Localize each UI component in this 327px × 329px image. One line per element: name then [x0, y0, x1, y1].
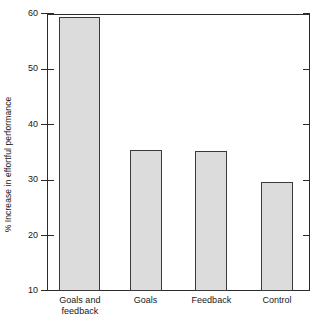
y-tick-label: 50: [14, 64, 38, 73]
x-tick-label-line: Control: [244, 295, 310, 306]
y-tick-mark-right: [303, 235, 310, 236]
x-tick-label-line: feedback: [47, 306, 113, 317]
x-tick-label-line: Goals: [113, 295, 179, 306]
y-tick-mark-outer: [41, 13, 47, 14]
y-tick-mark: [47, 180, 54, 181]
y-tick-mark-outer: [41, 124, 47, 125]
bar: [130, 150, 162, 291]
y-tick-mark-right: [303, 180, 310, 181]
bar: [261, 182, 293, 291]
y-tick-mark-right: [303, 69, 310, 70]
y-tick-mark-right: [303, 290, 310, 291]
bar-chart-figure: % Increase in effortful performance 1020…: [0, 0, 327, 329]
bar: [195, 151, 227, 291]
y-tick-mark-outer: [41, 235, 47, 236]
x-tick-label: Feedback: [179, 295, 245, 306]
y-tick-mark: [47, 124, 54, 125]
y-tick-label: 30: [14, 175, 38, 184]
y-tick-mark-outer: [41, 180, 47, 181]
x-tick-label-line: Feedback: [179, 295, 245, 306]
bar: [59, 17, 100, 291]
y-tick-mark-outer: [41, 69, 47, 70]
y-tick-mark: [47, 235, 54, 236]
x-tick-label: Goals andfeedback: [47, 295, 113, 317]
y-tick-label: 20: [14, 231, 38, 240]
x-tick-label: Goals: [113, 295, 179, 306]
y-tick-mark: [47, 69, 54, 70]
y-tick-mark-outer: [41, 290, 47, 291]
y-tick-mark-right: [303, 13, 310, 14]
y-axis-title: % Increase in effortful performance: [0, 0, 16, 329]
x-tick-label-line: Goals and: [47, 295, 113, 306]
y-tick-label: 60: [14, 9, 38, 18]
y-tick-mark: [47, 290, 54, 291]
y-tick-label: 10: [14, 286, 38, 295]
x-tick-label: Control: [244, 295, 310, 306]
y-tick-mark-right: [303, 124, 310, 125]
y-tick-mark: [47, 13, 54, 14]
y-tick-label: 40: [14, 120, 38, 129]
